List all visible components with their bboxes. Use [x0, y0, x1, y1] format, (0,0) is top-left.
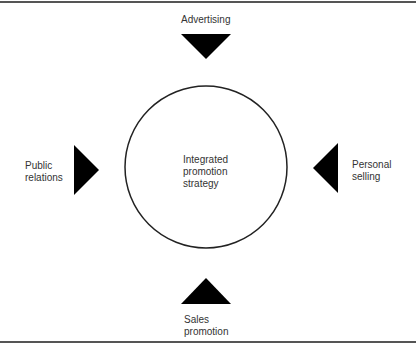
advertising-label: Advertising: [181, 14, 230, 26]
bottom-border-rule: [0, 341, 416, 343]
public-relations-label: Public relations: [25, 160, 63, 184]
center-line-1: Integrated: [183, 154, 228, 166]
personal-selling-label: Personal selling: [352, 159, 391, 183]
personal-selling-line-2: selling: [352, 171, 391, 183]
public-relations-line-1: Public: [25, 160, 63, 172]
arrow-down-icon: [181, 34, 231, 59]
advertising-text: Advertising: [181, 14, 230, 26]
sales-promotion-line-1: Sales: [184, 314, 228, 326]
center-line-3: strategy: [183, 178, 228, 190]
personal-selling-line-1: Personal: [352, 159, 391, 171]
center-strategy-label: Integrated promotion strategy: [183, 154, 228, 190]
public-relations-line-2: relations: [25, 172, 63, 184]
arrow-left-icon: [313, 143, 338, 193]
arrow-up-icon: [181, 278, 231, 304]
sales-promotion-label: Sales promotion: [184, 314, 228, 338]
arrow-right-icon: [74, 145, 99, 195]
center-line-2: promotion: [183, 166, 228, 178]
sales-promotion-line-2: promotion: [184, 326, 228, 338]
